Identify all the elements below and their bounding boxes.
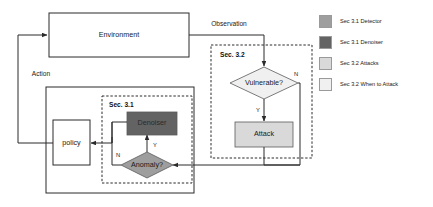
- observation-label: Observation: [211, 20, 247, 27]
- anomaly-no-label: N: [116, 152, 120, 158]
- anomaly-no-edge: [112, 122, 121, 165]
- legend-label-attacks: Sec 3.2 Attacks: [340, 61, 379, 67]
- action-label: Action: [32, 70, 51, 77]
- vulnerable-yes-label: Y: [256, 107, 260, 113]
- vulnerable-label: Vulnerable?: [245, 78, 283, 87]
- legend-swatch-attacks: [319, 57, 332, 70]
- policy-label: policy: [62, 138, 81, 147]
- legend-label-denoiser: Sec 3.1 Denoiser: [340, 40, 383, 46]
- sec31-group-label: Sec. 3.1: [109, 101, 134, 108]
- legend-item: Sec 3.1 Denoiser: [319, 32, 431, 53]
- diagram-canvas: Environment Sec. 3.2 Sec. 3.1 Observatio…: [0, 0, 433, 207]
- legend-label-when-to-attack: Sec 3.2 When to Attack: [340, 82, 398, 88]
- attack-label: Attack: [254, 129, 274, 138]
- legend-item: Sec 3.2 When to Attack: [319, 74, 431, 95]
- legend: Sec 3.1 Detector Sec 3.1 Denoiser Sec 3.…: [319, 11, 431, 95]
- legend-label-detector: Sec 3.1 Detector: [340, 19, 382, 25]
- action-edge: [18, 35, 53, 143]
- anomaly-yes-label: Y: [153, 142, 157, 148]
- legend-swatch-denoiser: [319, 36, 332, 49]
- vulnerable-no-label: N: [294, 71, 298, 77]
- legend-swatch-detector: [319, 15, 332, 28]
- denoiser-label: Denoiser: [138, 118, 167, 127]
- environment-label: Environment: [99, 30, 139, 39]
- legend-swatch-when-to-attack: [319, 78, 332, 91]
- sec32-group-label: Sec. 3.2: [220, 51, 245, 58]
- legend-item: Sec 3.1 Detector: [319, 11, 431, 32]
- anomaly-label: Anomaly?: [131, 160, 163, 169]
- legend-item: Sec 3.2 Attacks: [319, 53, 431, 74]
